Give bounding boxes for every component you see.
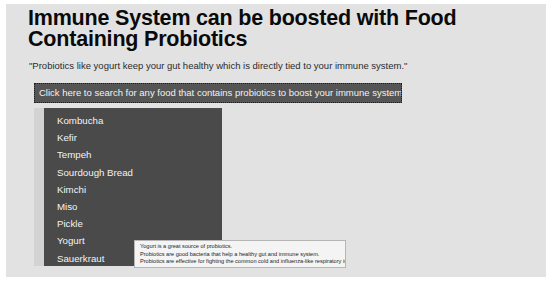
tooltip-line-1: Yogurt is a great source of probiotics.	[140, 243, 342, 251]
dropdown-item-sourdough-bread[interactable]: Sourdough Bread	[44, 164, 222, 181]
page-body: Immune System can be boosted with Food C…	[6, 4, 546, 277]
page-title: Immune System can be boosted with Food C…	[28, 8, 533, 50]
tooltip-line-2: Probiotics are good bacteria that help a…	[140, 251, 342, 259]
tooltip-line-3: Probiotics are effective for fighting th…	[140, 258, 342, 266]
dropdown-item-tempeh[interactable]: Tempeh	[44, 146, 222, 163]
dropdown-item-kombucha[interactable]: Kombucha	[44, 112, 222, 129]
search-probiotic-food-button[interactable]: Click here to search for any food that c…	[34, 83, 402, 103]
dropdown-item-miso[interactable]: Miso	[44, 198, 222, 215]
dropdown-item-kefir[interactable]: Kefir	[44, 129, 222, 146]
dropdown-scroll-gutter[interactable]	[34, 108, 44, 266]
dropdown-item-pickle[interactable]: Pickle	[44, 215, 222, 232]
dropdown-item-kimchi[interactable]: Kimchi	[44, 181, 222, 198]
yogurt-info-tooltip: Yogurt is a great source of probiotics. …	[134, 240, 346, 268]
page-frame: Immune System can be boosted with Food C…	[0, 0, 557, 284]
page-subtitle: "Probiotics like yogurt keep your gut he…	[29, 60, 529, 72]
